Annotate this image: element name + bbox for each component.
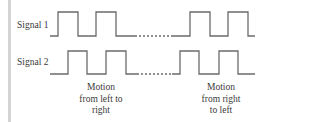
caption-rtl-line-1: Motion	[186, 82, 256, 94]
signal-1-left-pulses	[50, 12, 135, 36]
caption-left-to-right: Motion from left to right	[66, 82, 136, 117]
signal-1-right-pulses	[172, 12, 255, 36]
signal-2-left-pulses	[50, 51, 137, 74]
caption-ltr-line-3: right	[66, 105, 136, 117]
signal-2-right-pulses	[172, 51, 255, 74]
signal-1-waveform	[50, 12, 255, 36]
caption-ltr-line-2: from left to	[66, 94, 136, 106]
caption-ltr-line-1: Motion	[66, 82, 136, 94]
signal-2-waveform	[50, 51, 255, 74]
caption-rtl-line-2: from right	[186, 94, 256, 106]
caption-right-to-left: Motion from right to left	[186, 82, 256, 117]
caption-rtl-line-3: to left	[186, 105, 256, 117]
